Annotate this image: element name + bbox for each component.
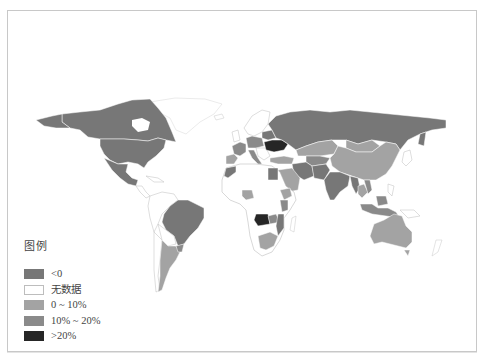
legend-swatch <box>24 331 44 341</box>
region-turkey[interactable] <box>270 156 294 164</box>
legend-item-10-20: 10% ~ 20% <box>24 314 100 328</box>
region-germany[interactable] <box>246 136 264 148</box>
region-new-guinea[interactable] <box>400 210 420 218</box>
legend-title: 图例 <box>24 237 100 253</box>
region-uk[interactable] <box>232 130 240 142</box>
legend-label: 0 ~ 10% <box>51 300 86 310</box>
region-japan[interactable] <box>402 150 412 166</box>
region-borneo[interactable] <box>376 196 388 206</box>
region-egypt[interactable] <box>268 168 278 180</box>
legend-item-lt0: <0 <box>24 267 100 281</box>
map-legend: 图例 <0 无数据 0 ~ 10% 10% ~ 20% >20% <box>24 237 100 345</box>
legend-swatch <box>24 269 44 279</box>
region-tasmania[interactable] <box>404 250 410 256</box>
region-philippines[interactable] <box>388 184 394 196</box>
legend-swatch <box>24 300 44 310</box>
legend-item-0-10: 0 ~ 10% <box>24 298 100 312</box>
legend-swatch <box>24 316 44 326</box>
legend-item-no-data: 无数据 <box>24 283 100 297</box>
legend-item-gt20: >20% <box>24 329 100 343</box>
region-central-america[interactable] <box>136 186 150 198</box>
region-iberia[interactable] <box>226 154 238 164</box>
region-india[interactable] <box>324 172 350 200</box>
legend-label: 无数据 <box>51 285 81 295</box>
legend-label: 10% ~ 20% <box>51 316 100 326</box>
legend-swatch <box>24 285 44 295</box>
region-australia[interactable] <box>370 214 412 248</box>
legend-label: >20% <box>51 331 76 341</box>
region-madagascar[interactable] <box>290 216 296 232</box>
legend-label: <0 <box>51 269 62 279</box>
region-caribbean[interactable] <box>146 176 164 182</box>
region-new-zealand[interactable] <box>432 240 442 256</box>
region-iceland[interactable] <box>214 114 224 120</box>
